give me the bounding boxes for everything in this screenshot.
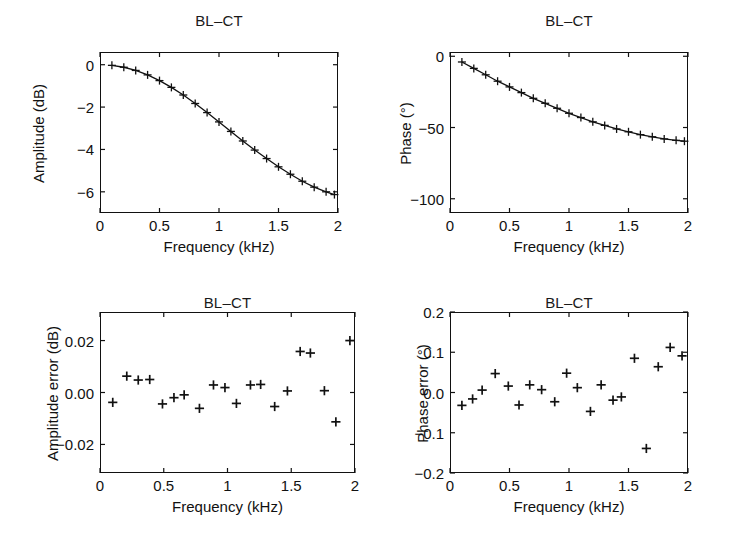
data-point-marker (537, 385, 546, 394)
ytick-label: −0.2 (404, 465, 444, 482)
data-point-marker (672, 136, 680, 144)
data-point-marker (648, 133, 656, 141)
xtick-label: 1 (565, 477, 573, 494)
data-point-marker (601, 121, 609, 129)
data-point-marker (514, 400, 523, 409)
data-point-marker (482, 71, 490, 79)
xtick-label: 2 (684, 217, 692, 234)
data-point-marker (608, 396, 617, 405)
data-point-marker (597, 380, 606, 389)
data-point-marker (553, 104, 561, 112)
panel-phase-xlabel: Frequency (kHz) (450, 238, 688, 255)
data-point-marker (660, 135, 668, 143)
data-point-marker (636, 131, 644, 139)
ytick-label: −100 (398, 190, 444, 207)
data-point-marker (617, 392, 626, 401)
xtick-label: 1.5 (618, 477, 639, 494)
data-point-marker (470, 64, 478, 72)
data-point-marker (573, 383, 582, 392)
data-point-marker (642, 444, 651, 453)
ytick-label: 0.1 (404, 344, 444, 361)
data-point-marker (491, 369, 500, 378)
ytick-label: −50 (398, 119, 444, 136)
data-point-marker (666, 343, 675, 352)
data-point-marker (625, 128, 633, 136)
data-point-marker (565, 109, 573, 117)
data-point-marker (529, 94, 537, 102)
xtick-label: 2 (684, 477, 692, 494)
data-point-marker (680, 137, 688, 145)
ytick-label: 0 (398, 48, 444, 65)
data-point-marker (494, 77, 502, 85)
data-point-marker (654, 362, 663, 371)
xtick-label: 0 (446, 477, 454, 494)
figure-canvas: BL–CT Frequency (kHz) Amplitude (dB) 00.… (0, 0, 736, 543)
xtick-label: 0 (446, 217, 454, 234)
data-point-marker (562, 369, 571, 378)
data-point-marker (504, 381, 513, 390)
xtick-label: 1 (565, 217, 573, 234)
data-point-marker (525, 380, 534, 389)
ytick-label: 0.0 (404, 384, 444, 401)
data-point-marker (630, 354, 639, 363)
data-point-marker (586, 407, 595, 416)
data-point-marker (458, 58, 466, 66)
ytick-label: −0.1 (404, 424, 444, 441)
data-point-marker (457, 401, 466, 410)
panel-phase-error-xlabel: Frequency (kHz) (450, 498, 688, 515)
xtick-label: 0.5 (499, 217, 520, 234)
data-point-marker (550, 397, 559, 406)
xtick-label: 1.5 (618, 217, 639, 234)
data-point-marker (577, 114, 585, 122)
data-point-marker (613, 125, 621, 133)
panel-phase: BL–CT Frequency (kHz) Phase (°) 00.511.5… (0, 0, 736, 272)
data-point-marker (468, 394, 477, 403)
data-point-marker (478, 385, 487, 394)
data-point-marker (589, 118, 597, 126)
ytick-label: 0.2 (404, 304, 444, 321)
data-point-marker (541, 99, 549, 107)
data-point-marker (506, 83, 514, 91)
panel-phase-error: BL–CT Frequency (kHz) Phase error (°) 00… (0, 272, 736, 543)
data-point-marker (517, 89, 525, 97)
xtick-label: 0.5 (499, 477, 520, 494)
